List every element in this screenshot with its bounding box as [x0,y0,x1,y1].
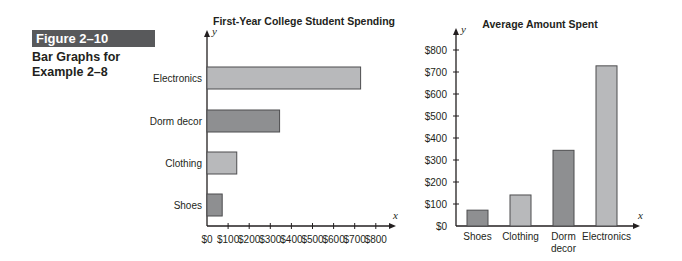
y-axis-label: y [211,25,217,37]
y-axis-label: y [460,23,466,35]
category-label: Clothing [165,158,202,169]
category-label: Electronics [582,231,631,242]
category-label: Dorm decor [150,116,203,127]
x-axis-label: x [637,209,643,221]
y-tick-label: $800 [425,45,448,56]
y-tick-label: $0 [436,221,448,232]
y-tick-label: $500 [425,111,448,122]
y-tick-label: $400 [425,133,448,144]
x-tick-label: $700 [344,234,367,245]
arrow-up-icon [453,28,459,35]
bar-electronics [207,67,361,89]
bar-shoes [467,210,488,226]
category-label: Shoes [463,231,491,242]
category-label: Shoes [174,200,202,211]
arrow-up-icon [204,30,210,37]
bar-dorm-decor [553,150,574,226]
x-tick-label: $600 [322,234,345,245]
y-tick-label: $200 [425,177,448,188]
category-label: Clothing [502,231,539,242]
category-label: Electronics [153,73,202,84]
category-label: Dorm [551,231,575,242]
arrow-right-icon [633,223,640,229]
x-tick-label: $500 [301,234,324,245]
x-tick-label: $100 [217,234,240,245]
category-label: decor [551,243,577,254]
bar-electronics [596,66,617,226]
y-tick-label: $600 [425,89,448,100]
bar-dorm-decor [207,110,280,132]
x-tick-label: $300 [259,234,282,245]
chart-title: First-Year College Student Spending [213,15,395,27]
chart-title: Average Amount Spent [482,18,598,30]
x-tick-label: $200 [238,234,261,245]
bar-clothing [510,195,531,226]
x-axis-label: x [392,209,398,221]
x-tick-label: $400 [280,234,303,245]
arrow-right-icon [389,223,396,229]
charts-canvas: First-Year College Student Spendingyx$0$… [0,0,682,261]
y-tick-label: $700 [425,67,448,78]
y-tick-label: $300 [425,155,448,166]
x-tick-label: $0 [201,234,213,245]
x-tick-label: $800 [365,234,388,245]
bar-clothing [207,152,237,174]
bar-shoes [207,194,222,216]
y-tick-label: $100 [425,199,448,210]
